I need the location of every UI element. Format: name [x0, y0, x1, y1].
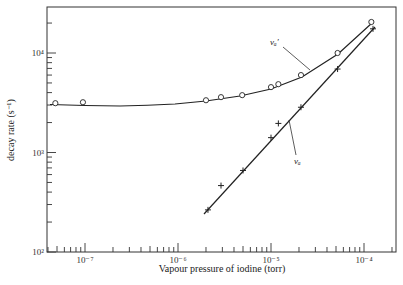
plus-marker	[275, 120, 281, 126]
plot-frame	[47, 7, 396, 252]
label-va: νₐ	[294, 156, 301, 166]
plus-marker	[268, 135, 274, 141]
circle-marker	[298, 72, 303, 77]
circle-marker	[268, 85, 273, 90]
circle-marker	[369, 19, 374, 24]
plus-marker	[335, 66, 341, 72]
y-axis-ticks: 10²10³10⁴	[32, 23, 56, 257]
x-axis-title: Vapour pressure of iodine (torr)	[159, 263, 286, 275]
circle-marker	[53, 101, 58, 106]
leader-line-va	[289, 120, 296, 155]
x-tick-label: 10⁻⁷	[76, 255, 93, 265]
circle-marker	[276, 82, 281, 87]
x-axis-ticks: 10⁻⁷10⁻⁶10⁻⁵10⁻⁴	[48, 243, 392, 265]
chart: 10⁻⁷10⁻⁶10⁻⁵10⁻⁴ 10²10³10⁴ νₐ′νₐ Vapour …	[0, 0, 403, 285]
circle-marker	[335, 50, 340, 55]
series-annotations: νₐ′νₐ	[270, 37, 310, 166]
y-tick-label: 10²	[32, 247, 44, 257]
y-axis-title: decay rate (s⁻¹)	[5, 99, 17, 161]
x-tick-label: 10⁻⁴	[355, 255, 372, 265]
y-tick-label: 10⁴	[32, 48, 44, 58]
curve-va-prime	[50, 23, 372, 106]
plus-marker	[218, 183, 224, 189]
plot-border	[47, 7, 396, 252]
circle-marker	[240, 93, 245, 98]
label-va-prime: νₐ′	[270, 37, 280, 47]
circle-marker	[80, 100, 85, 105]
circle-marker	[218, 95, 223, 100]
data-markers	[53, 19, 376, 213]
y-tick-label: 10³	[32, 148, 44, 158]
fitted-curves	[50, 23, 375, 214]
circle-marker	[203, 98, 208, 103]
leader-line-va-prime	[283, 47, 310, 70]
